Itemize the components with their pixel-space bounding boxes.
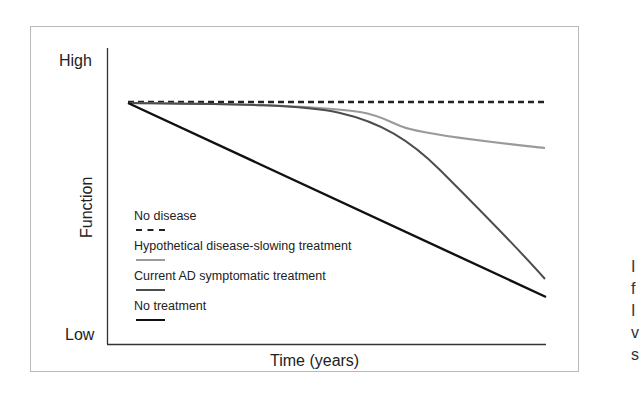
cropped-text-fragment: s: [631, 346, 641, 364]
cropped-text-fragment: f: [631, 280, 641, 298]
legend-swatch-light-gray: [136, 259, 165, 261]
y-axis-title: Function: [78, 177, 96, 238]
cropped-text-fragment: I: [631, 302, 641, 320]
legend-item-symptomatic: Current AD symptomatic treatment: [134, 269, 351, 299]
cropped-text-fragment: I: [631, 258, 641, 276]
x-axis-title: Time (years): [270, 352, 359, 370]
legend-swatch-dark-gray: [136, 289, 165, 291]
legend-item-no-disease: No disease: [134, 209, 351, 239]
y-tick-high: High: [59, 52, 92, 70]
legend-swatch-dashed: [136, 229, 165, 231]
legend-item-no-treatment: No treatment: [134, 299, 351, 329]
legend-label: No treatment: [134, 299, 351, 314]
series-disease-slowing: [128, 103, 545, 148]
legend-item-disease-slowing: Hypothetical disease-slowing treatment: [134, 239, 351, 269]
legend-swatch-black: [136, 319, 165, 321]
cropped-text-fragment: v: [631, 324, 641, 342]
legend: No disease Hypothetical disease-slowing …: [134, 209, 351, 329]
legend-label: No disease: [134, 209, 351, 224]
legend-label: Current AD symptomatic treatment: [134, 269, 351, 284]
legend-label: Hypothetical disease-slowing treatment: [134, 239, 351, 254]
y-tick-low: Low: [65, 326, 94, 344]
